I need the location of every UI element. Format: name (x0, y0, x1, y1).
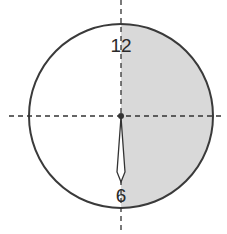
center-pivot (118, 113, 124, 119)
clock-diagram: 12 6 (0, 0, 227, 234)
label-6: 6 (116, 185, 127, 206)
label-12: 12 (110, 35, 131, 56)
